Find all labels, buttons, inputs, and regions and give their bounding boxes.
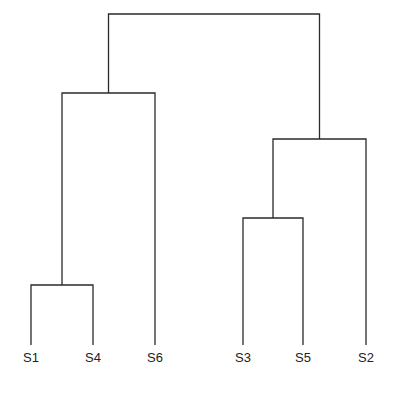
leaf-label-s1: S1 <box>23 350 39 365</box>
merge-link-c4 <box>62 93 155 345</box>
dendrogram: S1S4S6S3S5S2 <box>0 0 393 393</box>
merge-link-c3 <box>273 139 366 345</box>
leaf-labels: S1S4S6S3S5S2 <box>23 350 374 365</box>
leaf-label-s6: S6 <box>147 350 163 365</box>
leaf-label-s3: S3 <box>235 350 251 365</box>
merge-link-c2 <box>243 218 303 345</box>
dendrogram-links <box>31 14 366 345</box>
leaf-label-s2: S2 <box>358 350 374 365</box>
merge-link-root <box>109 14 320 139</box>
leaf-label-s5: S5 <box>295 350 311 365</box>
leaf-label-s4: S4 <box>85 350 101 365</box>
merge-link-c1 <box>31 285 93 345</box>
